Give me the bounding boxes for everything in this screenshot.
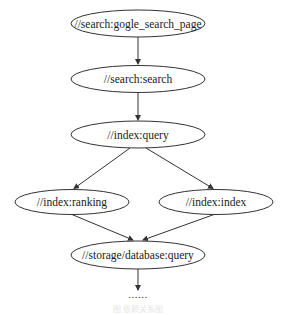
edge-query-to-ranking <box>74 148 130 189</box>
edge-ranking-to-storage <box>72 215 133 241</box>
node-label: //index:ranking <box>37 196 108 209</box>
node-label: //search:search <box>104 73 173 85</box>
node-gogle-search-page: //search:gogle_search_page <box>71 10 205 37</box>
dependency-graph: //search:gogle_search_page //search:sear… <box>0 0 285 315</box>
edge-query-to-index <box>146 148 213 189</box>
node-label: //storage/database:query <box>82 249 194 262</box>
node-index-query: //index:query <box>71 121 205 148</box>
continuation-ellipsis: ...... <box>128 288 148 300</box>
node-search-search: //search:search <box>71 66 205 93</box>
node-storage-database-query: //storage/database:query <box>71 241 205 269</box>
figure-caption: 图 依赖关系图 <box>113 304 164 314</box>
edge-index-to-storage <box>143 215 214 241</box>
node-index-ranking: //index:ranking <box>15 190 129 215</box>
node-index-index: //index:index <box>159 190 273 215</box>
node-label: //index:index <box>186 196 247 208</box>
node-label: //search:gogle_search_page <box>74 18 201 31</box>
node-label: //index:query <box>107 129 169 142</box>
